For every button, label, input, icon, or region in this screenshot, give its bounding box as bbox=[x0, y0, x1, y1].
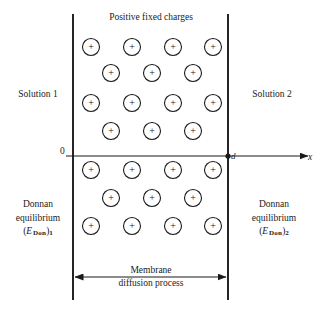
plus-sign-icon: + bbox=[129, 41, 135, 52]
donnan-right-symbol: (EDon)2 bbox=[252, 225, 296, 241]
plus-sign-icon: + bbox=[149, 192, 155, 203]
membrane-caption: Membrane diffusion process bbox=[119, 264, 184, 290]
plus-sign-icon: + bbox=[108, 67, 114, 78]
plus-sign-icon: + bbox=[170, 220, 176, 231]
positive-charge: + bbox=[205, 218, 222, 235]
positive-charge: + bbox=[144, 190, 161, 207]
positive-charge: + bbox=[185, 65, 202, 82]
donnan-membrane-diagram: +++++++++++++++++++++++++ Positive fixed… bbox=[0, 0, 322, 313]
plus-sign-icon: + bbox=[108, 192, 114, 203]
positive-charge: + bbox=[103, 190, 120, 207]
page-title: Positive fixed charges bbox=[109, 11, 193, 24]
plus-sign-icon: + bbox=[190, 192, 196, 203]
positive-charge: + bbox=[144, 65, 161, 82]
donnan-left-symbol: (EDon)1 bbox=[16, 225, 60, 241]
positive-charge: + bbox=[83, 95, 100, 112]
solution-1-label: Solution 1 bbox=[18, 88, 57, 101]
positive-charge: + bbox=[185, 190, 202, 207]
plus-sign-icon: + bbox=[170, 41, 176, 52]
plus-sign-icon: + bbox=[170, 97, 176, 108]
positive-charge: + bbox=[124, 39, 141, 56]
x-axis-label: x bbox=[308, 151, 312, 164]
positive-charge: + bbox=[124, 95, 141, 112]
plus-sign-icon: + bbox=[149, 125, 155, 136]
positive-charge: + bbox=[103, 123, 120, 140]
positive-charge: + bbox=[124, 162, 141, 179]
plus-sign-icon: + bbox=[88, 164, 94, 175]
positive-charge: + bbox=[83, 162, 100, 179]
plus-sign-icon: + bbox=[210, 41, 216, 52]
positive-charge: + bbox=[124, 218, 141, 235]
donnan-right-subscript: Don bbox=[268, 229, 282, 237]
plus-sign-icon: + bbox=[149, 67, 155, 78]
solution-2-label: Solution 2 bbox=[252, 88, 291, 101]
plus-sign-icon: + bbox=[190, 125, 196, 136]
membrane-caption-line2: diffusion process bbox=[119, 277, 184, 290]
positive-charge: + bbox=[165, 218, 182, 235]
donnan-left-line2: equilibrium bbox=[16, 212, 60, 226]
plus-sign-icon: + bbox=[210, 220, 216, 231]
donnan-equilibrium-right: Donnan equilibrium (EDon)2 bbox=[252, 198, 296, 241]
plus-sign-icon: + bbox=[108, 125, 114, 136]
x-axis bbox=[66, 153, 308, 158]
axis-point-d bbox=[225, 153, 230, 158]
donnan-right-line1: Donnan bbox=[252, 198, 296, 212]
plus-sign-icon: + bbox=[210, 97, 216, 108]
plus-sign-icon: + bbox=[170, 164, 176, 175]
positive-charge: + bbox=[83, 39, 100, 56]
positive-charge: + bbox=[144, 123, 161, 140]
plus-sign-icon: + bbox=[88, 41, 94, 52]
donnan-equilibrium-left: Donnan equilibrium (EDon)1 bbox=[16, 198, 60, 241]
axis-thickness-label: d bbox=[231, 150, 236, 163]
positive-charge: + bbox=[165, 162, 182, 179]
positive-charge: + bbox=[205, 39, 222, 56]
plus-sign-icon: + bbox=[129, 220, 135, 231]
plus-sign-icon: + bbox=[129, 164, 135, 175]
donnan-left-subscript: Don bbox=[32, 229, 46, 237]
plus-sign-icon: + bbox=[210, 164, 216, 175]
fixed-charge-layer: +++++++++++++++++++++++++ bbox=[83, 39, 222, 235]
plus-sign-icon: + bbox=[129, 97, 135, 108]
plus-sign-icon: + bbox=[88, 97, 94, 108]
positive-charge: + bbox=[205, 95, 222, 112]
positive-charge: + bbox=[83, 218, 100, 235]
positive-charge: + bbox=[165, 95, 182, 112]
donnan-left-index: 1 bbox=[49, 229, 53, 237]
axis-origin-label: 0 bbox=[60, 145, 65, 158]
plus-sign-icon: + bbox=[190, 67, 196, 78]
membrane-walls bbox=[73, 14, 228, 300]
positive-charge: + bbox=[103, 65, 120, 82]
donnan-right-index: 2 bbox=[285, 229, 289, 237]
positive-charge: + bbox=[205, 162, 222, 179]
membrane-caption-line1: Membrane bbox=[119, 264, 184, 277]
plus-sign-icon: + bbox=[88, 220, 94, 231]
positive-charge: + bbox=[185, 123, 202, 140]
positive-charge: + bbox=[165, 39, 182, 56]
donnan-left-line1: Donnan bbox=[16, 198, 60, 212]
donnan-right-line2: equilibrium bbox=[252, 212, 296, 226]
